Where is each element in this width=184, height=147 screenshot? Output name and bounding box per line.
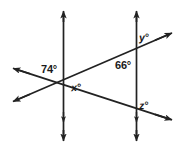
lower-transversal-arrow-right: [155, 114, 172, 120]
geometry-diagram: 74° x° 66° y° z°: [0, 0, 184, 147]
angle-label-66: 66°: [115, 60, 131, 71]
angle-label-z: z°: [139, 100, 149, 111]
angle-label-74: 74°: [41, 64, 57, 75]
angle-label-x: x°: [71, 82, 81, 93]
upper-transversal-arrow-right: [155, 33, 172, 40]
upper-transversal-arrow-left: [13, 94, 30, 101]
angle-label-y: y°: [139, 32, 149, 43]
lower-transversal-arrow-left: [13, 68, 30, 74]
lower-transversal-segment: [17, 70, 168, 119]
diagram-canvas: [0, 0, 184, 147]
lower-transversal-line: [13, 68, 172, 120]
upper-transversal-segment: [17, 35, 168, 100]
upper-transversal-line: [13, 33, 172, 102]
